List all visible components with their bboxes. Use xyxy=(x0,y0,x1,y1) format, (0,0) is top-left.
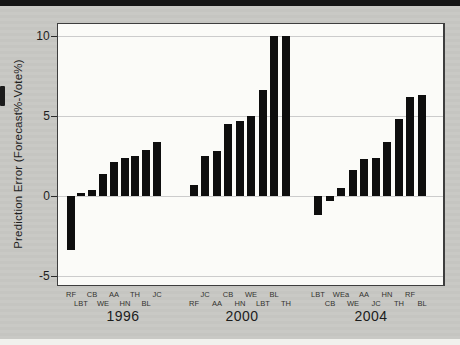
bar-2004-AA xyxy=(360,159,368,196)
bar-label-2004-BL: BL xyxy=(407,299,437,308)
bar-2000-AA xyxy=(213,151,221,196)
y-tick-10 xyxy=(51,36,57,37)
bar-1996-RF xyxy=(67,196,75,250)
scan-top-edge xyxy=(0,0,460,6)
bar-2000-WE xyxy=(247,116,255,196)
bar-2000-CB xyxy=(224,124,232,196)
y-tick--5 xyxy=(51,276,57,277)
bar-2004-LBT xyxy=(314,196,322,215)
year-label-2000: 2000 xyxy=(202,308,282,324)
bar-2000-LBT xyxy=(259,90,267,196)
gridline-10 xyxy=(58,36,444,37)
bar-label-1996-BL: BL xyxy=(131,299,161,308)
y-axis-title: Prediction Error (Forecast%-Vote%) xyxy=(12,38,26,270)
y-tick-label-0: 0 xyxy=(24,189,50,203)
gridline-0 xyxy=(58,196,444,197)
bar-2004-HN xyxy=(383,142,391,196)
bar-2000-HN xyxy=(236,121,244,196)
bar-2000-RF xyxy=(190,185,198,196)
scan-bottom-edge xyxy=(0,339,460,345)
bar-1996-TH xyxy=(131,156,139,196)
gridline--5 xyxy=(58,276,444,277)
bar-2004-WE xyxy=(349,170,357,196)
bar-2004-TH xyxy=(395,119,403,196)
year-label-2004: 2004 xyxy=(331,308,411,324)
bar-1996-BL xyxy=(142,150,150,196)
bar-1996-WE xyxy=(99,174,107,196)
bar-2000-TH xyxy=(282,36,290,196)
bar-2004-WEa xyxy=(337,188,345,196)
figure-canvas: Prediction Error (Forecast%-Vote%) 1050-… xyxy=(0,0,460,345)
bar-1996-LBT xyxy=(77,193,85,196)
bar-2004-RF xyxy=(406,97,414,196)
year-label-1996: 1996 xyxy=(83,308,163,324)
bar-1996-JC xyxy=(153,142,161,196)
bar-2004-CB xyxy=(326,196,334,201)
bar-1996-HN xyxy=(121,158,129,196)
scan-edge-artifact xyxy=(0,86,5,106)
y-tick-label--5: -5 xyxy=(24,269,50,283)
bar-label-2000-TH: TH xyxy=(271,299,301,308)
y-tick-label-5: 5 xyxy=(24,109,50,123)
bar-1996-AA xyxy=(110,162,118,196)
bar-2000-BL xyxy=(270,36,278,196)
y-tick-0 xyxy=(51,196,57,197)
bar-2004-JC xyxy=(372,158,380,196)
bar-label-2004-RF: RF xyxy=(395,290,425,299)
y-tick-label-10: 10 xyxy=(24,29,50,43)
bar-2004-BL xyxy=(418,95,426,196)
bar-1996-CB xyxy=(88,190,96,196)
bar-2000-JC xyxy=(201,156,209,196)
bar-label-2000-BL: BL xyxy=(259,290,289,299)
bar-label-1996-JC: JC xyxy=(142,290,172,299)
y-tick-5 xyxy=(51,116,57,117)
